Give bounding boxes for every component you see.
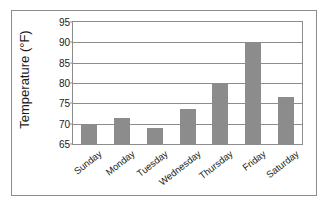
y-tick-label: 90 — [59, 37, 70, 48]
bar-series — [73, 22, 302, 144]
y-tick-label: 85 — [59, 57, 70, 68]
y-tick-label: 80 — [59, 78, 70, 89]
plot-area: 65707580859095 SundayMondayTuesdayWednes… — [72, 21, 303, 145]
bar-wednesday — [180, 109, 196, 144]
bar-monday — [114, 118, 130, 144]
bar-friday — [245, 42, 261, 144]
bar-sunday — [81, 124, 97, 144]
bar-thursday — [212, 83, 228, 144]
y-tick-label: 95 — [59, 17, 70, 28]
chart-figure: Temperature (°F) 65707580859095 SundayMo… — [0, 0, 328, 206]
y-axis-title: Temperature (°F) — [17, 20, 32, 140]
bar-tuesday — [147, 128, 163, 144]
y-tick-label: 75 — [59, 98, 70, 109]
y-tick-label: 70 — [59, 118, 70, 129]
bar-saturday — [278, 97, 294, 144]
y-tick-label: 65 — [59, 139, 70, 150]
